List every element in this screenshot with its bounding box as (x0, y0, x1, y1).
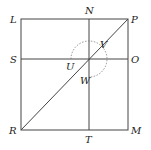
label-w: W (80, 75, 91, 86)
label-s: S (10, 54, 17, 65)
label-n: N (84, 5, 95, 16)
diagonal-rp (21, 19, 128, 130)
label-r: R (8, 125, 17, 136)
label-m: M (130, 125, 142, 136)
label-t: T (85, 134, 93, 145)
label-p: P (130, 14, 138, 25)
label-o: O (131, 54, 139, 65)
label-l: L (9, 14, 17, 25)
geometry-diagram: L N P S U V O W R T M (0, 0, 151, 150)
label-u: U (66, 61, 75, 72)
